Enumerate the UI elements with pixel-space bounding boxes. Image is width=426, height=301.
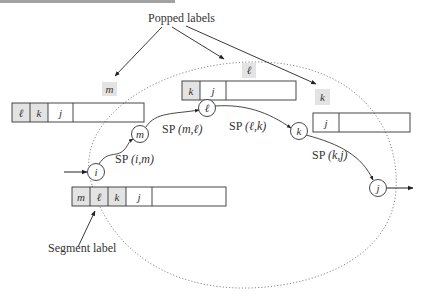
label-cell: j bbox=[57, 107, 62, 119]
label-list-left: ℓ k j bbox=[12, 103, 144, 122]
edge-label-sp-i-m: SP (i,m) bbox=[115, 152, 154, 166]
node-i: i bbox=[88, 164, 105, 181]
svg-text:ℓ: ℓ bbox=[247, 64, 252, 76]
cropped-heading bbox=[0, 0, 175, 3]
label-cell: j bbox=[135, 191, 140, 203]
label-cell: ℓ bbox=[97, 191, 102, 203]
diagram-svg: Popped labels m ℓ k ℓ k j k j j bbox=[0, 0, 426, 301]
popped-labels-annotation: Popped labels bbox=[148, 11, 215, 25]
node-m: m bbox=[132, 126, 149, 143]
node-j: j bbox=[370, 180, 387, 197]
edge-label-sp-k-j: SP (k,j) bbox=[312, 148, 348, 162]
svg-text:ℓ: ℓ bbox=[205, 102, 210, 114]
edge-label-sp-m-l: SP (m,ℓ) bbox=[162, 122, 203, 136]
label-list-right: j bbox=[313, 113, 410, 132]
segment-region-dotted-outline bbox=[89, 62, 397, 288]
segment-label-annotation: Segment label bbox=[48, 241, 117, 255]
svg-text:i: i bbox=[94, 166, 97, 178]
svg-text:m: m bbox=[136, 128, 144, 140]
label-cell: m bbox=[77, 191, 85, 203]
segment-label-diagram: Popped labels m ℓ k ℓ k j k j j bbox=[0, 0, 426, 301]
label-list-bottom: m ℓ k j bbox=[72, 187, 226, 206]
label-cell: j bbox=[322, 117, 327, 129]
popped-label-k: k bbox=[315, 89, 330, 105]
label-cell: j bbox=[209, 85, 214, 97]
edge-label-sp-l-k: SP (ℓ,k) bbox=[229, 119, 266, 133]
popped-label-m: m bbox=[102, 82, 117, 96]
pointer-arrow-to-m bbox=[115, 27, 162, 76]
node-k: k bbox=[291, 123, 308, 140]
label-cell: ℓ bbox=[19, 107, 24, 119]
label-list-middle: k j bbox=[182, 81, 296, 100]
svg-text:m: m bbox=[106, 83, 114, 95]
node-l: ℓ bbox=[199, 100, 216, 117]
popped-label-l: ℓ bbox=[242, 63, 256, 78]
